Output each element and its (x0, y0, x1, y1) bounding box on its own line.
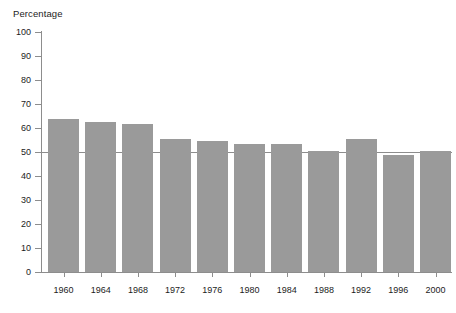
y-tick-label: 100 (6, 27, 31, 37)
x-tick-mark (64, 272, 65, 277)
y-tick-mark (35, 224, 41, 225)
y-tick-mark (35, 176, 41, 177)
x-tick-mark (138, 272, 139, 277)
x-tick-label: 2000 (416, 285, 456, 295)
x-tick-label: 1980 (230, 285, 270, 295)
bar (383, 155, 414, 272)
y-tick-label: 50 (6, 147, 31, 157)
bar (197, 141, 228, 272)
y-tick-mark (35, 248, 41, 249)
x-tick-label: 1968 (118, 285, 158, 295)
y-tick-mark (35, 32, 41, 33)
y-tick-mark (35, 104, 41, 105)
y-tick-label: 10 (6, 243, 31, 253)
x-tick-label: 1976 (192, 285, 232, 295)
x-tick-mark (324, 272, 325, 277)
x-tick-label: 1972 (155, 285, 195, 295)
y-tick-label: 40 (6, 171, 31, 181)
y-tick-label: 20 (6, 219, 31, 229)
x-tick-label: 1992 (341, 285, 381, 295)
y-tick-mark (35, 80, 41, 81)
bar (234, 144, 265, 272)
bar (308, 151, 339, 272)
bar (160, 139, 191, 272)
y-tick-label: 60 (6, 123, 31, 133)
bar-chart: Percentage 0102030405060708090100 196019… (0, 0, 456, 313)
x-tick-mark (361, 272, 362, 277)
bar (271, 144, 302, 272)
x-tick-label: 1964 (81, 285, 121, 295)
y-tick-label: 80 (6, 75, 31, 85)
x-tick-label: 1996 (378, 285, 418, 295)
y-tick-label: 70 (6, 99, 31, 109)
x-tick-mark (436, 272, 437, 277)
x-tick-label: 1988 (304, 285, 344, 295)
x-tick-mark (175, 272, 176, 277)
y-tick-mark (35, 128, 41, 129)
y-tick-label: 90 (6, 51, 31, 61)
y-tick-mark (35, 56, 41, 57)
x-tick-mark (250, 272, 251, 277)
bar (85, 122, 116, 272)
x-tick-mark (398, 272, 399, 277)
bar (346, 139, 377, 272)
bar (420, 151, 451, 272)
x-tick-label: 1960 (44, 285, 84, 295)
bar (122, 124, 153, 272)
y-tick-label: 30 (6, 195, 31, 205)
y-tick-mark (35, 272, 41, 273)
x-tick-mark (101, 272, 102, 277)
bar (48, 119, 79, 272)
x-tick-mark (212, 272, 213, 277)
x-axis-line (41, 272, 452, 273)
y-tick-label: 0 (6, 267, 31, 277)
y-tick-mark (35, 200, 41, 201)
y-axis-title: Percentage (13, 8, 63, 19)
x-tick-mark (287, 272, 288, 277)
x-tick-label: 1984 (267, 285, 307, 295)
